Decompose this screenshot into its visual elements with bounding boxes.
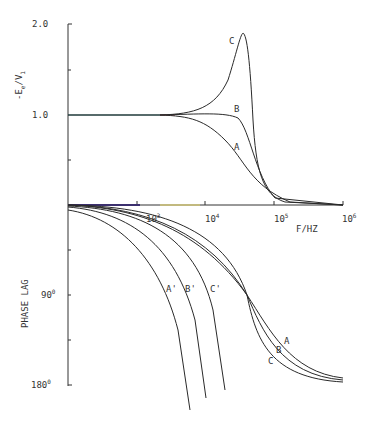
curve-label-C: C: [229, 36, 234, 46]
phase-curve-A-prime: [68, 210, 190, 410]
magnitude-curve-C: [160, 33, 343, 205]
curve-label-C-prime: C': [210, 284, 221, 294]
x-axis-title: F/HZ: [296, 224, 318, 234]
curve-label-B: B: [234, 104, 239, 114]
phase-label-B: B: [276, 345, 281, 355]
svg-text:-Ee/V1: -Ee/V1: [14, 71, 26, 100]
phase-tick-label-180: 1800: [31, 378, 51, 390]
curve-label-A: A: [234, 142, 240, 152]
x-tick-label-1e5: 105: [274, 212, 289, 224]
svg-text:PHASE LAG: PHASE LAG: [20, 279, 30, 328]
x-tick-label-1e3: 103: [146, 212, 161, 224]
phase-label-A: A: [284, 336, 290, 346]
y-axis-title: -Ee/V1: [14, 71, 26, 100]
bode-plot: 2.0 1.0 -Ee/V1 103 104 105 106 F/HZ PHAS…: [0, 0, 382, 426]
magnitude-curve-B: [160, 114, 343, 205]
x-tick-label-1e4: 104: [205, 212, 220, 224]
x-tick-label-1e6: 106: [342, 212, 357, 224]
y-tick-label-2: 2.0: [32, 19, 48, 29]
magnitude-curve-A: [160, 115, 343, 205]
phase-tick-label-90: 900: [41, 288, 56, 300]
curve-label-B-prime: B': [185, 284, 196, 294]
curve-label-A-prime: A': [166, 284, 177, 294]
y-tick-label-1: 1.0: [32, 110, 48, 120]
phase-curve-B-prime: [68, 207, 206, 398]
phase-label-C: C: [268, 356, 273, 366]
phase-axis-title: PHASE LAG: [20, 279, 30, 328]
